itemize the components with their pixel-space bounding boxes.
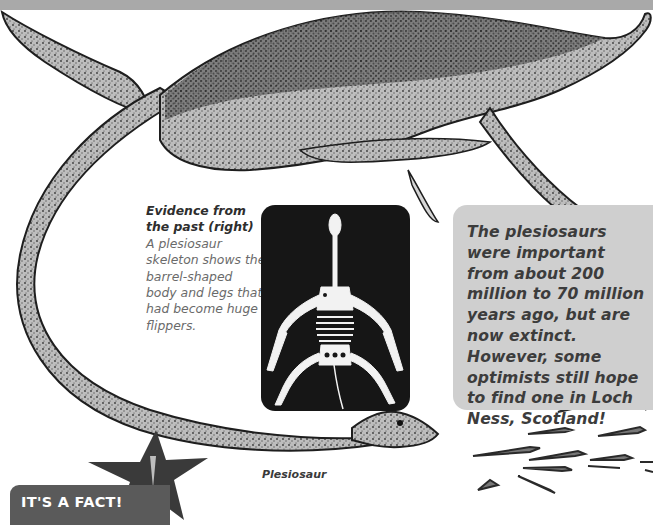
plesiosaur-label: Plesiosaur xyxy=(262,468,326,481)
badge-label: IT'S A FACT! xyxy=(21,494,123,510)
fact-box: The plesiosaurs were important from abou… xyxy=(453,205,653,410)
skeleton-image xyxy=(261,205,410,411)
skeleton-icon xyxy=(261,205,410,411)
plesiosaur-head xyxy=(352,412,438,447)
rear-flipper-left xyxy=(2,12,150,115)
caption-body: A plesiosaur skeleton shows the barrel-s… xyxy=(146,236,266,334)
caption-title: Evidence from the past (right) xyxy=(146,203,266,236)
skeleton-caption: Evidence from the past (right) A plesios… xyxy=(146,203,266,334)
fact-text: The plesiosaurs were important from abou… xyxy=(467,222,645,430)
its-a-fact-badge: IT'S A FACT! xyxy=(10,485,170,525)
